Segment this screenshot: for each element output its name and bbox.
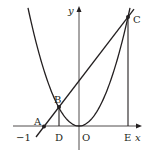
y-axis-arrow [77,6,82,12]
label-minus-one: −1 [16,132,31,143]
label-d: D [55,132,63,143]
point-b [57,105,61,109]
diagram: y x O −1 A B C D E [0,0,153,151]
point-a [42,125,46,129]
label-y: y [67,5,74,16]
label-c: C [133,14,141,25]
line-through-a-c [36,9,134,137]
label-a: A [33,116,42,127]
label-x: x [135,132,141,143]
point-c [126,15,130,19]
x-axis-arrow [136,124,142,129]
label-b: B [54,94,61,105]
label-e: E [124,132,131,143]
label-origin: O [82,132,90,143]
